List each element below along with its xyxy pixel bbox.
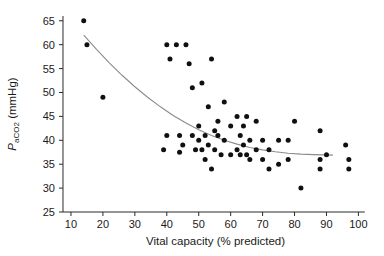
data-point bbox=[276, 162, 281, 167]
x-tick-label: 80 bbox=[288, 218, 300, 230]
y-tick-label: 40 bbox=[43, 134, 55, 146]
data-point bbox=[196, 123, 201, 128]
data-point bbox=[190, 133, 195, 138]
data-point bbox=[174, 42, 179, 47]
data-point bbox=[222, 100, 227, 105]
data-point bbox=[254, 119, 259, 124]
data-point bbox=[209, 57, 214, 62]
y-tick-label: 30 bbox=[43, 182, 55, 194]
data-point bbox=[199, 80, 204, 85]
data-point bbox=[244, 152, 249, 157]
data-point bbox=[203, 157, 208, 162]
data-point bbox=[318, 166, 323, 171]
data-point bbox=[244, 114, 249, 119]
y-tick-label: 60 bbox=[43, 39, 55, 51]
data-point bbox=[212, 147, 217, 152]
x-tick-label: 30 bbox=[129, 218, 141, 230]
y-tick-label: 65 bbox=[43, 15, 55, 27]
data-point bbox=[81, 18, 86, 23]
data-point bbox=[177, 150, 182, 155]
data-point bbox=[318, 157, 323, 162]
data-point bbox=[260, 138, 265, 143]
data-point bbox=[298, 186, 303, 191]
data-point bbox=[196, 138, 201, 143]
y-tick-label: 45 bbox=[43, 110, 55, 122]
data-point bbox=[247, 157, 252, 162]
data-point bbox=[286, 157, 291, 162]
data-point bbox=[183, 42, 188, 47]
data-point bbox=[190, 85, 195, 90]
data-point bbox=[100, 95, 105, 100]
x-axis-ticks: 102030405060708090100 bbox=[65, 212, 368, 230]
data-point bbox=[235, 114, 240, 119]
data-points-group bbox=[81, 18, 351, 190]
data-point bbox=[343, 143, 348, 148]
x-tick-label: 90 bbox=[320, 218, 332, 230]
x-tick-label: 40 bbox=[161, 218, 173, 230]
data-point bbox=[180, 143, 185, 148]
data-point bbox=[209, 166, 214, 171]
data-point bbox=[292, 119, 297, 124]
data-point bbox=[276, 138, 281, 143]
x-tick-label: 50 bbox=[193, 218, 205, 230]
data-point bbox=[235, 147, 240, 152]
data-point bbox=[286, 138, 291, 143]
y-axis-title: PaCO2 (mmHg) bbox=[6, 77, 21, 150]
data-point bbox=[228, 152, 233, 157]
data-point bbox=[164, 42, 169, 47]
data-point bbox=[187, 61, 192, 66]
data-point bbox=[219, 152, 224, 157]
data-point bbox=[346, 157, 351, 162]
data-point bbox=[164, 133, 169, 138]
data-point bbox=[177, 133, 182, 138]
y-tick-label: 55 bbox=[43, 63, 55, 75]
data-point bbox=[318, 128, 323, 133]
x-tick-label: 10 bbox=[65, 218, 77, 230]
data-point bbox=[193, 147, 198, 152]
data-point bbox=[241, 123, 246, 128]
data-point bbox=[228, 123, 233, 128]
data-point bbox=[212, 128, 217, 133]
fitted-trend-curve bbox=[84, 35, 333, 155]
y-tick-label: 35 bbox=[43, 158, 55, 170]
data-point bbox=[206, 143, 211, 148]
y-tick-label: 50 bbox=[43, 86, 55, 98]
x-tick-label: 70 bbox=[256, 218, 268, 230]
data-point bbox=[215, 133, 220, 138]
data-point bbox=[266, 147, 271, 152]
data-point bbox=[324, 152, 329, 157]
data-point bbox=[215, 119, 220, 124]
y-axis-ticks: 253035404550556065 bbox=[43, 15, 63, 218]
data-point bbox=[167, 57, 172, 62]
data-point bbox=[238, 133, 243, 138]
plot-canvas: 253035404550556065 102030405060708090100… bbox=[0, 0, 384, 256]
x-tick-label: 60 bbox=[225, 218, 237, 230]
data-point bbox=[222, 138, 227, 143]
data-point bbox=[238, 152, 243, 157]
y-tick-label: 25 bbox=[43, 206, 55, 218]
data-point bbox=[241, 143, 246, 148]
data-point bbox=[206, 104, 211, 109]
data-point bbox=[161, 147, 166, 152]
data-point bbox=[203, 133, 208, 138]
data-point bbox=[266, 166, 271, 171]
data-point bbox=[199, 147, 204, 152]
data-point bbox=[247, 138, 252, 143]
data-point bbox=[254, 147, 259, 152]
data-point bbox=[346, 166, 351, 171]
data-point bbox=[260, 157, 265, 162]
x-tick-label: 20 bbox=[97, 218, 109, 230]
scatter-plot-figure: 253035404550556065 102030405060708090100… bbox=[0, 0, 384, 256]
x-axis-title: Vital capacity (% predicted) bbox=[146, 235, 285, 247]
data-point bbox=[84, 42, 89, 47]
x-tick-label: 100 bbox=[349, 218, 367, 230]
